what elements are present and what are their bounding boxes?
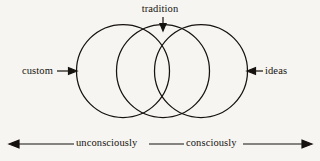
label-ideas: ideas (265, 66, 287, 77)
ideas-arrow-head (247, 68, 256, 75)
diagram-figure: tradition custom ideas unconsciously con… (0, 0, 320, 161)
label-consciously: consciously (186, 138, 237, 149)
axis-arrow-head-right (302, 140, 312, 148)
circle-custom (77, 25, 170, 118)
circle-ideas (155, 25, 248, 118)
diagram-canvas (0, 0, 320, 161)
custom-arrow-head (69, 68, 78, 75)
circle-tradition (117, 25, 210, 118)
tradition-arrow-head (160, 24, 166, 32)
label-tradition: tradition (0, 4, 320, 15)
label-unconsciously: unconsciously (76, 138, 137, 149)
label-custom: custom (22, 66, 53, 77)
axis-arrow-head-left (9, 140, 19, 148)
